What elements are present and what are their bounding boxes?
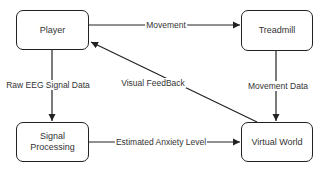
edge-label-anxiety-level: Estimated Anxiety Level xyxy=(115,137,207,147)
node-signal-processing[interactable]: Signal Processing xyxy=(16,122,89,162)
edge-label-movement: Movement xyxy=(145,20,187,30)
node-treadmill[interactable]: Treadmill xyxy=(241,10,313,51)
edge-label-movement-data: Movement Data xyxy=(247,81,309,91)
edge-label-raw-eeg: Raw EEG Signal Data xyxy=(5,80,91,90)
node-virtual-world-label: Virtual World xyxy=(251,137,302,148)
edge-label-visual-feedback: Visual FeedBack xyxy=(120,78,186,88)
node-player[interactable]: Player xyxy=(16,10,89,50)
node-treadmill-label: Treadmill xyxy=(259,25,296,36)
node-virtual-world[interactable]: Virtual World xyxy=(241,122,313,162)
node-player-label: Player xyxy=(40,25,66,36)
node-signal-processing-label: Signal Processing xyxy=(30,131,75,153)
